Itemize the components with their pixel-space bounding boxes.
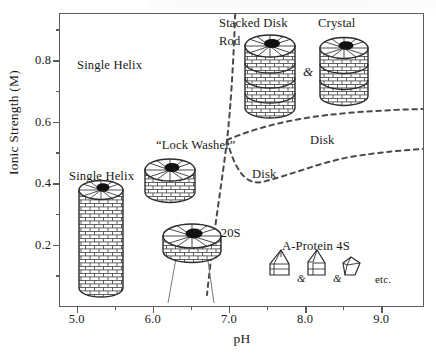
y-tick-label-3: 0.8	[35, 53, 51, 68]
region-label-a-protein: A-Protein 4S	[282, 239, 350, 253]
figure-canvas: 0.2 0.4 0.6 0.8 5.0 6.0 7.0 8.0 9.0 Sing…	[0, 0, 436, 356]
y-tick-major-1	[53, 183, 60, 185]
region-label-disk-upper: Disk	[310, 133, 334, 147]
y-tick-major-3	[53, 60, 60, 62]
y-tick-minor-2	[56, 152, 60, 153]
region-label-disk-20s: Disk 20S	[193, 226, 241, 240]
y-tick-label-1: 0.4	[35, 176, 51, 191]
region-label-lock-washer: “Lock Washer”	[156, 138, 235, 152]
y-tick-minor-3	[56, 91, 60, 92]
ampersand-top: &	[303, 64, 313, 80]
region-label-stacked-disk: Stacked Disk	[219, 16, 288, 30]
x-tick-label-2: 7.0	[221, 312, 237, 327]
x-tick-label-4: 9.0	[373, 312, 389, 327]
x-tick-label-3: 8.0	[297, 312, 313, 327]
plot-frame: 0.2 0.4 0.6 0.8 5.0 6.0 7.0 8.0 9.0 Sing…	[59, 13, 424, 307]
ampersand-wedge-1: &	[297, 272, 306, 284]
region-label-crystal: Crystal	[318, 16, 355, 30]
region-label-single-helix-lower: Single Helix	[69, 169, 134, 183]
x-tick-minor-0	[115, 306, 116, 310]
y-tick-major-0	[53, 245, 60, 247]
x-tick-minor-2	[267, 306, 268, 310]
y-tick-major-2	[53, 122, 60, 124]
ampersand-wedge-2: &	[333, 272, 342, 284]
region-label-single-helix-upper: Single Helix	[77, 58, 142, 72]
x-tick-minor-1	[191, 306, 192, 310]
x-axis-title: pH	[234, 331, 251, 347]
region-label-etc: etc.	[375, 273, 391, 285]
y-axis-title: Ionic Strength (M)	[6, 70, 22, 175]
y-tick-label-0: 0.2	[35, 237, 51, 252]
region-label-disk-lower: Disk	[252, 167, 276, 181]
y-tick-minor-1	[56, 214, 60, 215]
cropped-caption-artifact	[150, 0, 436, 9]
region-label-rod: Rod	[219, 34, 240, 48]
y-tick-minor-0	[56, 275, 60, 276]
x-tick-label-1: 6.0	[145, 312, 161, 327]
x-tick-minor-3	[343, 306, 344, 310]
y-tick-minor-4	[56, 29, 60, 30]
x-tick-label-0: 5.0	[69, 312, 85, 327]
y-tick-label-2: 0.6	[35, 114, 51, 129]
